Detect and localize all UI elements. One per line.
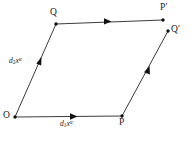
vertex-label-Q: Q [50,8,57,18]
prime-mark-Q: ′ [178,24,180,34]
edge-P-Q-prime [122,31,168,116]
vertex-dot-O [13,115,16,118]
edge-label-d1-x-alpha: d1xα [60,120,73,129]
d2-superscript: α [19,56,22,62]
vertex-label-O: O [3,111,10,121]
arrowhead-group [36,18,150,120]
edge-O-Q [15,24,56,117]
diagram-svg [0,0,190,146]
edge-O-P [15,116,122,117]
vertex-dot-Q [54,22,57,25]
arrowhead-O-Q [36,57,41,66]
d1-superscript: α [70,119,73,125]
edge-group [15,20,168,117]
arrowhead-Q-P-prime [104,18,112,24]
vertex-label-P: P [119,118,124,128]
vertex-label-Q-prime-base: Q [171,24,178,34]
prime-mark-P: ′ [165,2,167,12]
vertex-dot-P-prime [161,18,164,21]
vertex-label-Q-prime: Q′ [171,25,180,35]
vertex-dot-Q-prime [166,29,169,32]
edge-label-d2-x-alpha: d2xα [9,57,22,66]
vertex-label-P-prime: P′ [160,3,168,13]
figure-canvas: O P Q P′ Q′ d1xα d2xα [0,0,190,146]
